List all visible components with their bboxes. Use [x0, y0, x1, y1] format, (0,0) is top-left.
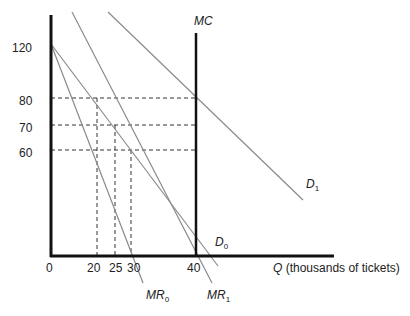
d0-curve	[51, 44, 218, 266]
mr0-label: MR0	[146, 288, 170, 304]
x-tick-20: 20	[87, 261, 101, 275]
x-tick-30: 30	[127, 261, 141, 275]
mr1-label: MR1	[207, 288, 231, 304]
mc-label: MC	[194, 14, 213, 28]
d1-curve	[108, 12, 303, 200]
x-tick-0: 0	[46, 261, 53, 275]
economics-chart: 120 80 70 60 0 20 25 30 40 MC D0 D1 MR0 …	[0, 0, 410, 316]
x-tick-40: 40	[187, 261, 201, 275]
y-tick-60: 60	[19, 146, 33, 160]
x-axis-label: Q (thousands of tickets)	[273, 261, 400, 275]
y-tick-80: 80	[19, 94, 33, 108]
x-tick-25: 25	[109, 261, 123, 275]
y-tick-70: 70	[19, 121, 33, 135]
d1-label: D1	[306, 177, 320, 193]
d0-label: D0	[215, 235, 229, 251]
y-tick-120: 120	[12, 41, 32, 55]
mr1-curve	[72, 12, 212, 283]
